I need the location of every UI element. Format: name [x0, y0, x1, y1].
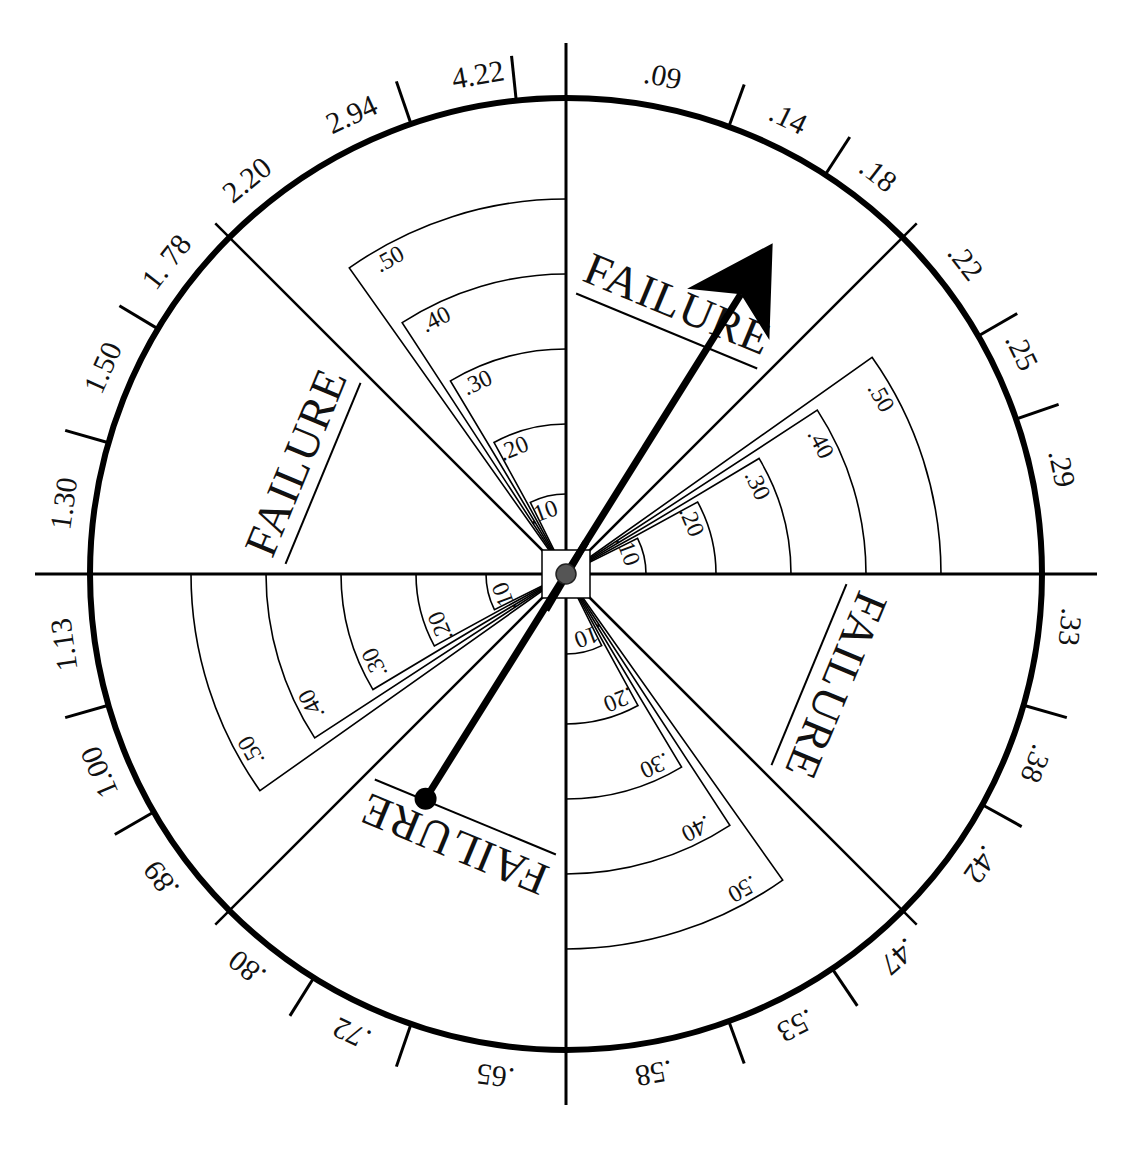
arc-value-label: .50: [370, 240, 409, 277]
arc-value-label: .40: [293, 685, 330, 724]
ring-value-label: .09: [641, 56, 684, 96]
arc-value-label: .30: [458, 364, 496, 400]
arc-value-label: .40: [416, 301, 455, 338]
tick-mark: [825, 137, 850, 175]
arc-value-label: .20: [674, 502, 710, 540]
tick-mark: [729, 1021, 744, 1063]
tick-mark: [65, 705, 108, 717]
arc-value-label: .20: [422, 608, 458, 646]
ring-value-label: .65: [474, 1058, 516, 1096]
tick-mark: [396, 1024, 411, 1067]
tick-mark: [1024, 705, 1067, 717]
failure-text: FAILURE: [775, 585, 898, 787]
ring-value-label: .38: [1014, 741, 1059, 788]
ring-value-label: 1.50: [77, 337, 129, 398]
ring-value-label: .22: [941, 237, 990, 287]
failure-text: FAILURE: [234, 361, 357, 563]
arc-value-label: .50: [232, 731, 269, 770]
tick-mark: [1016, 404, 1059, 419]
ring-value-label: 4.22: [449, 53, 506, 95]
arc-value-label: .20: [600, 682, 638, 718]
tick-mark: [982, 805, 1021, 827]
ring-value-label: .53: [772, 1003, 820, 1049]
tick-mark: [512, 56, 517, 101]
arc-value-label: .40: [803, 424, 840, 463]
ring-value-label: .14: [764, 95, 812, 141]
arc-value-label: .50: [723, 871, 762, 908]
ring-value-label: .47: [874, 932, 924, 982]
tick-mark: [65, 430, 108, 442]
spinner-board: .10.20.30.40.50.10.20.30.40.50.10.20.30.…: [0, 0, 1122, 1151]
tick-mark: [290, 978, 314, 1016]
failure-zone-label: FAILURE: [771, 583, 898, 787]
ring-value-label: .33: [1052, 607, 1089, 648]
tick-mark: [396, 81, 411, 124]
tick-mark: [119, 306, 158, 329]
ring-value-label: .18: [854, 149, 904, 198]
tick-mark: [978, 314, 1017, 337]
ring-value-label: 1.13: [43, 616, 83, 673]
failure-zone-label: FAILURE: [234, 361, 361, 565]
arc-value-label: .50: [863, 378, 900, 417]
tick-mark: [729, 84, 744, 126]
ring-value-label: 2.94: [321, 88, 383, 140]
tick-mark: [832, 969, 857, 1006]
arc-value-label: .30: [740, 466, 776, 504]
pivot-icon: [556, 564, 576, 584]
ring-value-label: .72: [328, 1011, 376, 1057]
arc-value-label: .30: [636, 748, 674, 784]
ring-value-label: .42: [958, 840, 1007, 890]
arc-value-label: .40: [677, 811, 716, 848]
ring-value-label: .89: [136, 855, 185, 905]
ring-value-label: .80: [222, 944, 272, 993]
ring-value-label: .25: [999, 327, 1045, 375]
ring-value-label: 1.00: [73, 742, 124, 803]
failure-zone-label: FAILURE: [353, 779, 557, 906]
ring-value-label: .29: [1042, 447, 1082, 491]
failure-text: FAILURE: [353, 783, 555, 906]
arc-value-label: .30: [356, 644, 392, 682]
ring-value-label: 1.30: [43, 475, 83, 532]
pointer-tail-dot[interactable]: [415, 788, 437, 810]
tick-mark: [115, 812, 154, 835]
arc-value-label: .20: [494, 430, 532, 466]
ring-value-label: .58: [633, 1054, 676, 1093]
spinner-pointer[interactable]: [415, 243, 773, 809]
